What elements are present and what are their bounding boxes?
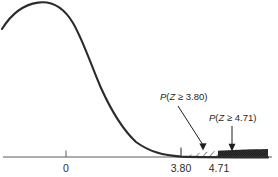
- prob-label-380-value: 3.80: [186, 91, 205, 102]
- prob-label-471-close: ): [253, 112, 256, 123]
- normal-curve: [2, 2, 268, 157]
- shaded-region-tail-471: [218, 149, 268, 157]
- prob-label-380: P(Z ≥ 3.80): [160, 91, 208, 102]
- normal-distribution-figure: 0 3.80 4.71 P(Z ≥ 3.80) P(Z ≥ 4.71): [0, 0, 278, 177]
- tick-label-471: 4.71: [209, 162, 230, 174]
- prob-label-471-value: 4.71: [235, 112, 254, 123]
- prob-label-380-op: ≥: [175, 91, 186, 102]
- tick-label-380: 3.80: [171, 162, 192, 174]
- prob-label-380-close: ): [204, 91, 207, 102]
- leader-line-380: [178, 106, 203, 145]
- arrow-head-380: [199, 143, 206, 150]
- tick-label-0: 0: [63, 162, 69, 174]
- prob-label-471-op: ≥: [224, 112, 235, 123]
- prob-label-471: P(Z ≥ 4.71): [209, 112, 257, 123]
